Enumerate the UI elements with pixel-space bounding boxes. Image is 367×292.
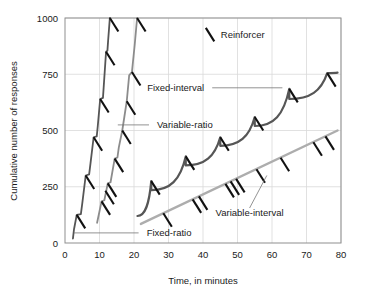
y-tick-label: 500 [42, 125, 58, 136]
x-tick-label: 40 [198, 249, 209, 260]
x-tick-label: 80 [336, 249, 347, 260]
x-tick-label: 70 [301, 249, 312, 260]
cumulative-response-chart: 0102030405060708002505007501000 Fixed-ra… [0, 0, 367, 292]
x-tick-label: 60 [267, 249, 278, 260]
x-axis-title: Time, in minutes [168, 275, 238, 286]
y-tick-label: 1000 [37, 13, 58, 24]
y-tick-label: 750 [42, 69, 58, 80]
x-tick-label: 30 [163, 249, 174, 260]
chart-canvas: 0102030405060708002505007501000 Fixed-ra… [0, 0, 367, 292]
x-tick-label: 10 [94, 249, 105, 260]
variable-ratio-label: Variable-ratio [157, 119, 213, 130]
fixed-ratio-label: Fixed-ratio [147, 227, 192, 238]
x-tick-label: 50 [232, 249, 243, 260]
reinforcer-legend-label: Reinforcer [221, 29, 265, 40]
x-tick-label: 20 [129, 249, 140, 260]
variable-interval-label: Variable-interval [216, 207, 284, 218]
fixed-interval-label: Fixed-interval [147, 82, 204, 93]
y-tick-label: 0 [53, 238, 58, 249]
x-tick-label: 0 [62, 249, 67, 260]
y-axis-title: Cumulative number of responses [8, 61, 19, 201]
y-tick-label: 250 [42, 181, 58, 192]
